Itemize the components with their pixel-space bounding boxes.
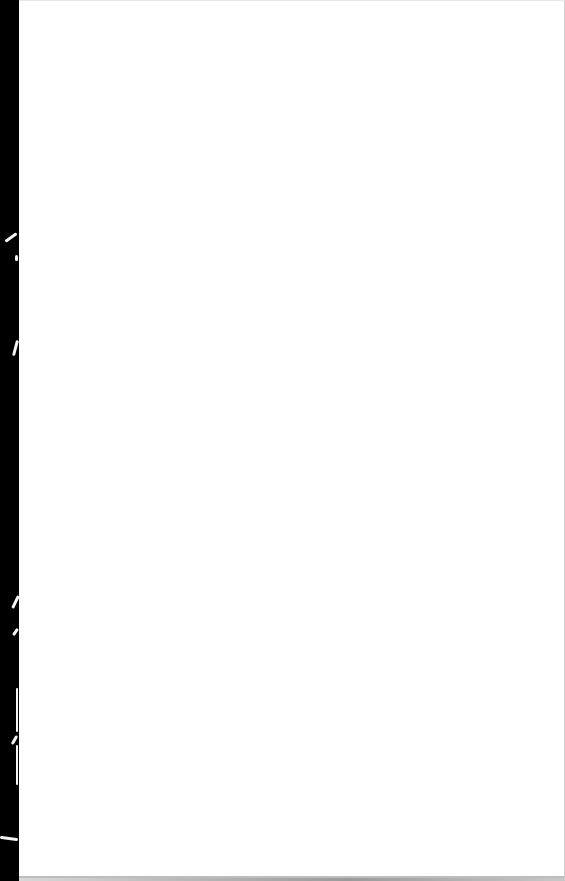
paper-fiber-decoration — [0, 836, 18, 841]
blank-paper-page — [19, 0, 565, 878]
paper-fiber-decoration — [12, 340, 19, 356]
paper-fiber-decoration — [15, 255, 18, 261]
paper-fiber-decoration — [11, 735, 19, 745]
paper-fiber-decoration — [4, 232, 17, 242]
paper-fiber-decoration — [16, 688, 18, 732]
paper-fiber-decoration — [16, 745, 18, 785]
paper-fiber-decoration — [12, 628, 19, 636]
scanned-document — [0, 0, 565, 881]
